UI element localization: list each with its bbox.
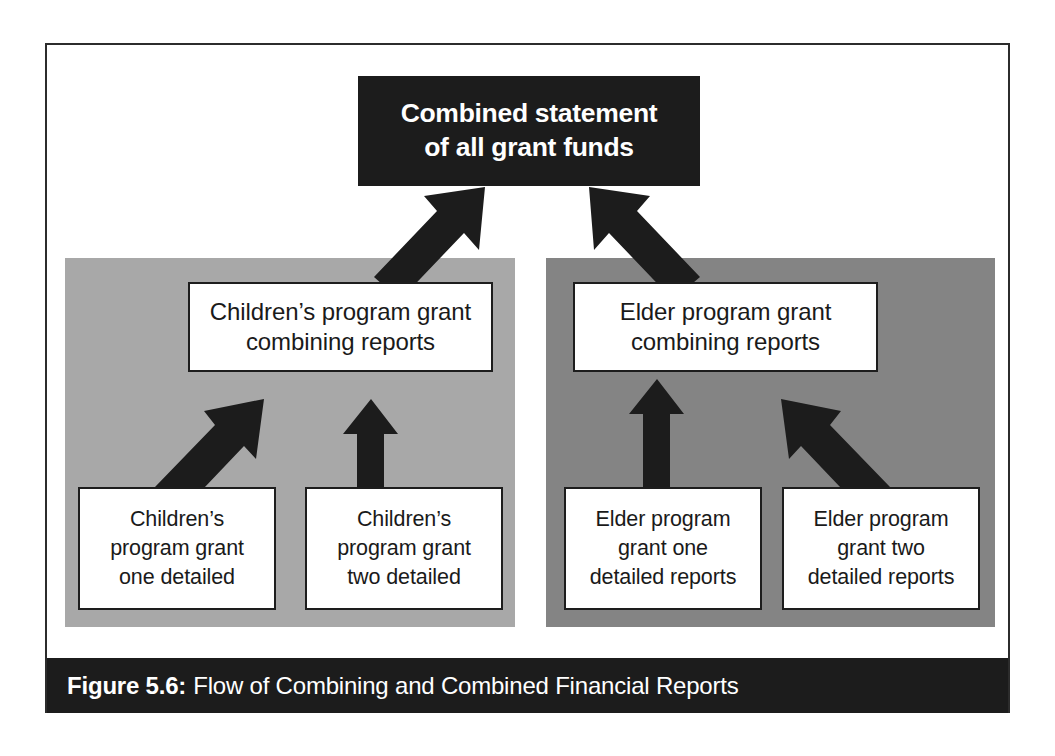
node-children-grant-two-line3: two detailed [331, 563, 477, 592]
figure-caption-label: Figure 5.6: [67, 672, 186, 700]
node-elder-combining-line1: Elder program grant [614, 297, 838, 327]
node-elder-combining-line2: combining reports [614, 327, 838, 357]
node-combined-statement[interactable]: Combined statement of all grant funds [358, 76, 700, 186]
node-elder-grant-one-detailed-reports[interactable]: Elder program grant one detailed reports [564, 487, 762, 610]
node-children-grant-one-line3: one detailed [104, 563, 250, 592]
node-children-grant-one-line1: Children’s [104, 505, 250, 534]
node-elder-grant-one-line2: grant one [584, 534, 743, 563]
node-combined-statement-line2: of all grant funds [395, 131, 664, 165]
node-elder-grant-two-line2: grant two [802, 534, 961, 563]
figure-caption-text: Flow of Combining and Combined Financial… [193, 672, 738, 700]
node-children-combining-line1: Children’s program grant [204, 297, 477, 327]
node-elder-grant-one-line1: Elder program [584, 505, 743, 534]
node-children-combining-line2: combining reports [204, 327, 477, 357]
node-elder-grant-two-detailed-reports[interactable]: Elder program grant two detailed reports [782, 487, 980, 610]
node-elder-grant-one-line3: detailed reports [584, 563, 743, 592]
node-combined-statement-line1: Combined statement [395, 97, 664, 131]
node-children-grant-two-line1: Children’s [331, 505, 477, 534]
node-children-grant-two-line2: program grant [331, 534, 477, 563]
node-elder-grant-two-line1: Elder program [802, 505, 961, 534]
node-children-grant-one-detailed[interactable]: Children’s program grant one detailed [78, 487, 276, 610]
node-elder-grant-two-line3: detailed reports [802, 563, 961, 592]
node-children-grant-one-line2: program grant [104, 534, 250, 563]
node-children-combining-reports[interactable]: Children’s program grant combining repor… [188, 282, 493, 372]
node-children-grant-two-detailed[interactable]: Children’s program grant two detailed [305, 487, 503, 610]
figure-caption-bar: Figure 5.6: Flow of Combining and Combin… [47, 658, 1008, 713]
figure-container: Combined statement of all grant funds Ch… [0, 0, 1055, 756]
node-elder-combining-reports[interactable]: Elder program grant combining reports [573, 282, 878, 372]
